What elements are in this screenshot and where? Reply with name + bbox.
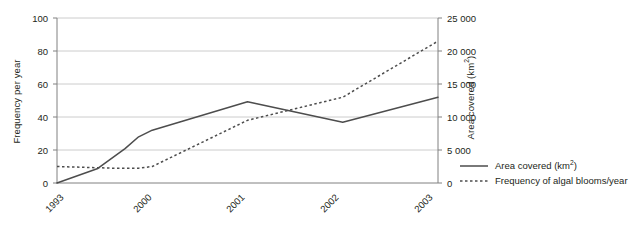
y-tick-right-25000: 25 000 xyxy=(447,14,501,24)
legend-label-area-covered-tail: ) xyxy=(574,160,577,171)
legend-label-area-covered: Area covered (km2) xyxy=(495,161,577,171)
chart-figure: Frequency per year Area covered (km2) xyxy=(0,0,641,230)
chart-legend: Area covered (km2) Frequency of algal bl… xyxy=(460,158,628,188)
y-tick-right-15000: 15 000 xyxy=(447,80,501,90)
y-tick-right-10000: 10 000 xyxy=(447,113,501,123)
y-axis-right-ticks xyxy=(438,18,442,183)
legend-item-frequency: Frequency of algal blooms/year xyxy=(460,173,628,188)
legend-label-area-covered-text: Area covered (km xyxy=(495,160,570,171)
y-tick-right-20000: 20 000 xyxy=(447,47,501,57)
y-tick-left-60: 60 xyxy=(8,80,48,90)
y-tick-left-40: 40 xyxy=(8,113,48,123)
y-tick-right-5000: 5 000 xyxy=(447,146,501,156)
plot-area xyxy=(0,0,641,230)
y-tick-left-20: 20 xyxy=(8,146,48,156)
series-line-area-covered xyxy=(57,97,438,183)
series-line-frequency xyxy=(57,41,438,168)
y-axis-left-ticks xyxy=(53,18,57,183)
y-tick-left-100: 100 xyxy=(8,14,48,24)
y-tick-left-0: 0 xyxy=(8,179,48,189)
legend-item-area-covered: Area covered (km2) xyxy=(460,158,628,173)
gridlines xyxy=(57,18,438,150)
legend-swatch-dotted-line-icon xyxy=(460,176,488,186)
legend-swatch-solid-line-icon xyxy=(460,161,488,171)
y-tick-left-80: 80 xyxy=(8,47,48,57)
legend-label-frequency: Frequency of algal blooms/year xyxy=(495,176,628,186)
